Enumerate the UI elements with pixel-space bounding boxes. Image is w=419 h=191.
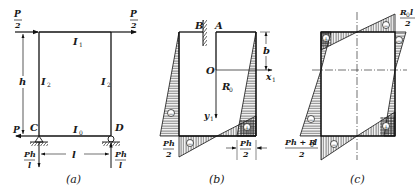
fixed-support-b [203, 20, 207, 46]
dim-b-label: b [263, 45, 270, 56]
origin-label: O [206, 65, 215, 76]
sign-positive-corner: + [244, 124, 251, 132]
reaction-left-num: Ph [23, 149, 36, 159]
moment-top-num-tail: l [410, 7, 413, 17]
moment-bottom-num-tail: l [314, 137, 317, 147]
moment-top-den: 2 [404, 18, 411, 28]
sign-text: + [324, 35, 329, 42]
sign-negative-right-column: − [396, 37, 403, 45]
sign-negative-bottom: − [331, 141, 338, 149]
caption-b: (b) [209, 173, 225, 186]
sign-text: − [169, 110, 174, 117]
moment-diagram-left-column [160, 32, 179, 136]
moment-bottom-beam-left [321, 136, 357, 160]
panel-b: B A O x 1 y 1 R 0 b − − + Ph [160, 20, 276, 186]
node-c-label: C [30, 122, 38, 133]
sign-text: − [384, 22, 389, 29]
span-label: l [72, 149, 76, 160]
moment-left-den: 2 [165, 149, 172, 159]
structural-frame-figure: P 2 P 2 h I 1 I 2 I 2 I 0 P C D [0, 0, 419, 191]
sign-negative-top-right: − [383, 22, 390, 30]
sign-text: + [245, 124, 250, 131]
node-b-label: B [194, 20, 203, 31]
sign-text: − [309, 116, 314, 123]
axis-x1-subscript: 1 [272, 76, 276, 83]
node-a-label: A [214, 20, 223, 31]
load-top-left-num: P [13, 9, 21, 19]
column-right-label: I [100, 76, 106, 87]
sign-text: − [397, 37, 402, 44]
load-top-right-num: P [129, 9, 137, 19]
moment-left-column-bottom [300, 70, 321, 136]
column-left-label: I [40, 76, 46, 87]
beam-bottom-subscript: 0 [79, 129, 83, 136]
caption-a: (a) [66, 173, 81, 186]
reaction-left-den: l [28, 160, 31, 170]
moment-diagram-bottom-beam-neg [179, 136, 217, 157]
sign-negative-bottom: − [187, 140, 194, 148]
caption-c: (c) [350, 173, 365, 186]
moment-top-beam-right [357, 14, 395, 32]
beam-bottom-label: I [72, 124, 78, 135]
sign-negative-left: − [168, 110, 175, 118]
sign-text: − [188, 140, 193, 147]
node-d-label: D [114, 122, 124, 133]
axis-y1-label: y [203, 111, 210, 121]
sign-positive-bottom-right: + [383, 123, 390, 131]
moment-right-den: 2 [242, 149, 249, 159]
column-right-subscript: 2 [107, 81, 111, 88]
moment-right-num: Ph [239, 138, 252, 148]
sign-positive-top-left: + [323, 35, 330, 43]
column-left-subscript: 2 [47, 81, 51, 88]
panel-c: + − − − + − R 0 l 2 Ph + R 0 l [284, 7, 415, 186]
load-top-left-den: 2 [14, 20, 21, 30]
sign-text: − [332, 141, 337, 148]
load-bottom-left: P [12, 125, 20, 135]
height-label: h [19, 76, 26, 87]
beam-top-label: I [72, 36, 78, 47]
moment-left-num: Ph [162, 138, 175, 148]
sign-negative-left-column: − [308, 116, 315, 124]
sign-text: + [384, 123, 389, 130]
axis-x1-label: x [265, 72, 272, 82]
redundant-subscript: 0 [229, 86, 233, 93]
axis-y1-subscript: 1 [210, 115, 214, 122]
panel-a: P 2 P 2 h I 1 I 2 I 2 I 0 P C D [12, 9, 138, 186]
reaction-right-num: Ph [114, 149, 127, 159]
beam-top-subscript: 1 [79, 41, 83, 48]
load-top-right-den: 2 [130, 20, 137, 30]
reaction-right-den: l [119, 160, 122, 170]
moment-bottom-den: 2 [298, 149, 305, 159]
